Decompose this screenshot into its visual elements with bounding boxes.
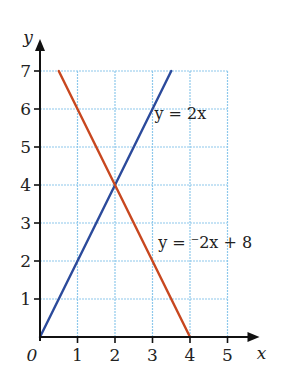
axes <box>34 39 260 343</box>
origin-label: 0 <box>27 345 38 365</box>
y-tick-label: 6 <box>20 99 31 119</box>
x-tick-label: 4 <box>185 345 196 365</box>
y-tick-label: 2 <box>20 251 31 271</box>
x-tick-label: 2 <box>110 345 121 365</box>
x-axis-label: x <box>257 343 267 363</box>
y-axis-label: y <box>22 27 33 47</box>
equation-label-y-2x: y = 2x <box>153 104 206 123</box>
y-tick-label: 5 <box>20 137 31 157</box>
y-tick-label: 7 <box>20 61 31 81</box>
y-tick-label: 4 <box>20 175 31 195</box>
y-axis-arrow-icon <box>35 39 45 51</box>
x-tick-label: 5 <box>222 345 233 365</box>
x-axis-arrow-icon <box>248 332 260 342</box>
y-tick-label: 3 <box>20 213 31 233</box>
x-tick-label: 1 <box>72 345 83 365</box>
series-line-y-2x <box>40 71 171 337</box>
equation-label-y-neg2x-plus-8: y = ⁻2x + 8 <box>157 233 252 252</box>
y-tick-label: 1 <box>20 289 31 309</box>
line-chart: 123451234567 y x 0 y = 2x y = ⁻2x + 8 <box>0 0 287 384</box>
x-tick-label: 3 <box>147 345 158 365</box>
